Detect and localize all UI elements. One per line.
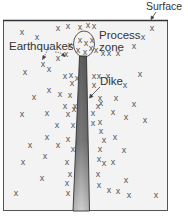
earthquake-marker: x [55, 120, 60, 130]
earthquake-marker: x [63, 71, 68, 81]
earthquake-marker: x [123, 80, 128, 90]
earthquake-marker: x [99, 98, 104, 108]
earthquake-marker: x [78, 22, 83, 32]
earthquake-marker: x [116, 186, 121, 196]
earthquake-marker: x [56, 53, 61, 63]
earthquake-marker: x [58, 89, 63, 99]
earthquake-marker: x [124, 112, 129, 122]
surface-pointer-arrow [151, 12, 156, 20]
earthquake-marker: x [23, 67, 28, 77]
earthquake-marker: x [66, 21, 71, 31]
earthquake-marker: x [138, 69, 143, 79]
earthquakes-label: Earthquakes [9, 41, 74, 52]
earthquake-marker: x [107, 185, 112, 195]
earthquake-marker: x [102, 158, 107, 168]
earthquake-marker: x [124, 175, 129, 185]
earthquake-marker: x [127, 190, 132, 200]
earthquake-marker: x [154, 190, 159, 200]
earthquake-marker: x [66, 109, 71, 119]
earthquake-marker: x [111, 157, 116, 167]
earthquake-marker: x [72, 104, 77, 114]
earthquake-marker: x [68, 90, 73, 100]
earthquake-marker: x [65, 178, 70, 188]
earthquake-marker: x [102, 135, 107, 145]
earthquake-marker: x [122, 145, 127, 155]
earthquake-marker: x [14, 188, 19, 198]
earthquake-marker: x [56, 140, 61, 150]
process-zone-label-line1: Process [99, 30, 141, 41]
earthquake-marker: x [92, 21, 97, 31]
earthquake-marker: x [56, 23, 61, 33]
earthquake-marker: x [113, 132, 118, 142]
earthquake-marker: x [65, 157, 70, 167]
earthquake-marker: x [98, 144, 103, 154]
earthquake-marker: x [71, 144, 76, 154]
earthquake-marker: x [97, 180, 102, 190]
earthquake-marker: x [47, 64, 52, 74]
earthquake-marker: x [111, 107, 116, 117]
earthquake-marker: x [66, 188, 71, 198]
process-zone-label-line2: zone [99, 42, 124, 53]
earthquake-marker: x [70, 78, 75, 88]
earthquake-marker: x [76, 45, 81, 55]
earthquake-marker: x [83, 47, 88, 57]
earthquake-marker: x [66, 134, 71, 144]
earthquake-marker: x [96, 169, 101, 179]
earthquake-marker: x [41, 59, 46, 69]
surface-label: Surface [146, 1, 182, 12]
earthquake-marker: x [45, 108, 50, 118]
earthquake-marker: x [47, 85, 52, 95]
earthquake-marker: x [132, 41, 137, 51]
earthquake-marker: x [141, 32, 146, 42]
earthquake-marker: x [21, 157, 26, 167]
earthquake-marker: x [114, 93, 119, 103]
earthquake-marker: x [91, 108, 96, 118]
earthquake-marker: x [94, 45, 99, 55]
earthquake-marker: x [40, 173, 45, 183]
earthquake-marker: x [75, 73, 80, 83]
dike-diagram: xxxxxxxxxxxxxxxxxxxxxxxxxxxxxxxxxxxxxxxx… [0, 0, 188, 216]
dike-label: Dike [100, 76, 123, 87]
earthquake-marker: x [20, 27, 25, 37]
earthquake-marker: x [86, 20, 91, 30]
earthquake-marker: x [143, 115, 148, 125]
earthquake-marker: x [28, 140, 33, 150]
earthquake-marker: x [150, 23, 155, 33]
earthquake-marker: x [32, 92, 37, 102]
earthquake-marker: x [91, 118, 96, 128]
earthquake-marker: x [45, 132, 50, 142]
earthquake-marker: x [92, 80, 97, 90]
earthquake-marker: x [43, 151, 48, 161]
earthquake-marker: x [132, 99, 137, 109]
earthquake-marker: x [20, 109, 25, 119]
earthquake-marker: x [71, 120, 76, 130]
earthquake-marker: x [78, 35, 83, 45]
